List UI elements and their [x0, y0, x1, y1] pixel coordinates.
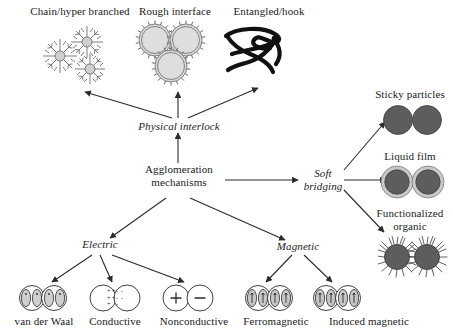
edge-electric-to-vanderwaal — [52, 255, 92, 282]
node-soft-bridging: Soft bridging — [300, 167, 346, 192]
label-van-der-waal: van der Waal — [4, 315, 84, 328]
label-liquid-film: Liquid film — [374, 150, 446, 163]
label-induced-magnetic: Induced magnetic — [316, 315, 422, 328]
svg-text:-: - — [121, 288, 123, 294]
label-nonconductive: Nonconductive — [151, 315, 237, 328]
label-sticky-particles: Sticky particles — [366, 88, 453, 101]
two-dark-spheres-icon — [382, 104, 444, 136]
agglomeration-mechanisms-diagram: ++ ++ + -- -- - — [0, 0, 453, 336]
magnetic-dipole-pair-icon — [240, 284, 300, 312]
node-agglomeration-mechanisms: Agglomeration mechanisms — [120, 163, 238, 188]
svg-text:-: - — [116, 288, 118, 294]
label-conductive: Conductive — [79, 315, 151, 328]
edge-soft-to-sticky — [344, 122, 385, 170]
charge-transfer-spheres-icon: ++ ++ + -- -- - — [87, 284, 143, 312]
hairy-spheres-icon — [378, 236, 448, 278]
label-entangled-hook: Entangled/hook — [214, 5, 324, 18]
label-functionalized-organic: Functionalized organic — [366, 207, 453, 232]
svg-text:-: - — [116, 301, 118, 307]
dendrite-cluster-icon — [32, 24, 124, 84]
edge-interlock-to-chain — [85, 92, 172, 118]
edge-magnetic-to-ferromagnetic — [266, 255, 292, 282]
edge-electric-to-nonconductive — [112, 255, 184, 282]
magnetic-dipole-pair-icon — [308, 284, 368, 312]
label-ferromagnetic: Ferromagnetic — [234, 315, 318, 328]
dipole-pair-icon — [14, 284, 74, 312]
edge-magnetic-to-induced — [304, 255, 332, 282]
node-electric: Electric — [68, 238, 132, 251]
plus-minus-spheres-icon — [160, 284, 216, 312]
tangled-fiber-icon — [218, 20, 298, 82]
edge-electric-to-conductive — [100, 255, 112, 282]
edge-root-to-electric — [110, 198, 166, 238]
node-physical-interlock: Physical interlock — [120, 120, 238, 133]
node-magnetic: Magnetic — [266, 240, 330, 253]
spheres-with-film-icon — [380, 165, 446, 199]
edge-root-to-magnetic — [190, 198, 285, 240]
gear-particles-icon — [134, 20, 208, 86]
svg-text:-: - — [121, 295, 123, 301]
edge-interlock-to-entangled — [188, 88, 258, 118]
